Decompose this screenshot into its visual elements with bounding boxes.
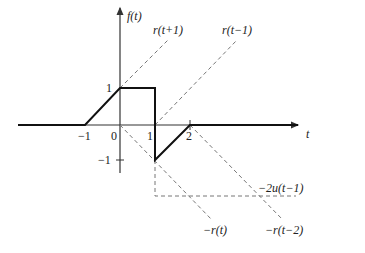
- r-t-minus-1-line: [155, 40, 237, 125]
- tick-label-neg1: −1: [78, 129, 91, 143]
- r-t-minus-1-label: r(t−1): [222, 23, 252, 37]
- neg-2u-t-minus-1-label: −2u(t−1): [258, 181, 304, 195]
- r-t-plus-1-line: [120, 40, 168, 88]
- tick-label-2: 2: [186, 129, 192, 143]
- neg-r-t-minus-2-label: −r(t−2): [265, 223, 303, 237]
- signal-plot: f(t) t −1 0 1 2 1 −1 r(t+1) r(t−1) −2u(t…: [0, 0, 365, 253]
- tick-label-0: 0: [111, 129, 117, 143]
- x-axis-label: t: [306, 127, 310, 141]
- tick-label-yneg1: −1: [98, 153, 111, 167]
- r-t-plus-1-label: r(t+1): [153, 23, 183, 37]
- tick-label-1: 1: [147, 129, 153, 143]
- signal-f-t: [18, 88, 298, 160]
- neg-r-t-label: −r(t): [203, 223, 227, 237]
- y-axis-label: f(t): [127, 9, 142, 23]
- tick-label-y1: 1: [106, 81, 112, 95]
- neg-r-t-line: [120, 125, 212, 220]
- neg-r-t-minus-2-line: [190, 125, 283, 220]
